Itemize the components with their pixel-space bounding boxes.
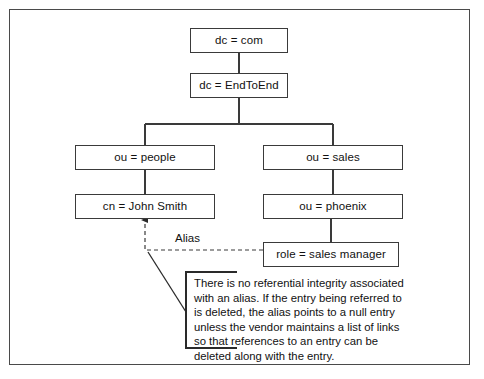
node-ou-phoenix: ou = phoenix <box>263 194 403 219</box>
node-ou-people: ou = people <box>75 145 215 170</box>
callout-text: There is no referential integrity associ… <box>194 276 406 364</box>
node-label: ou = sales <box>306 152 360 164</box>
node-dc-endtoend: dc = EndToEnd <box>190 73 288 98</box>
callout-note: There is no referential integrity associ… <box>185 271 409 349</box>
node-label: dc = com <box>215 35 263 47</box>
diagram-root: dc = com dc = EndToEnd ou = people ou = … <box>0 0 484 379</box>
node-dc-com: dc = com <box>190 28 288 53</box>
node-label: role = sales manager <box>276 249 386 261</box>
alias-label: Alias <box>175 232 200 244</box>
node-ou-sales: ou = sales <box>263 145 403 170</box>
node-cn-john-smith: cn = John Smith <box>75 194 215 219</box>
node-label: cn = John Smith <box>103 201 187 213</box>
node-role-sales-manager: role = sales manager <box>263 242 399 267</box>
node-label: dc = EndToEnd <box>199 80 279 92</box>
node-label: ou = people <box>114 152 176 164</box>
node-label: ou = phoenix <box>299 201 366 213</box>
